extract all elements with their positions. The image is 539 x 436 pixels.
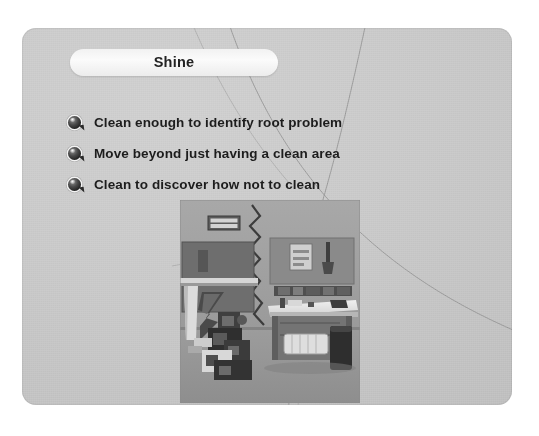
slide-page: Shine Clean enough to identify root prob… (0, 0, 539, 436)
list-item: Move beyond just having a clean area (68, 139, 458, 167)
glossy-sphere-bullet-icon (68, 178, 81, 191)
list-item: Clean enough to identify root problem (68, 108, 458, 136)
glossy-sphere-bullet-icon (68, 147, 81, 160)
bullet-label: Move beyond just having a clean area (94, 146, 340, 161)
bullet-label: Clean enough to identify root problem (94, 115, 342, 130)
glossy-sphere-bullet-icon (68, 116, 81, 129)
slide-title-pill: Shine (70, 49, 278, 76)
page-title: Shine (154, 55, 194, 70)
bullet-list: Clean enough to identify root problem Mo… (68, 108, 458, 201)
workplace-photo (180, 200, 360, 403)
clean-workbench-area (264, 238, 358, 374)
bullet-label: Clean to discover how not to clean (94, 177, 320, 192)
presentation-slide: Shine Clean enough to identify root prob… (22, 28, 512, 405)
list-item: Clean to discover how not to clean (68, 170, 458, 198)
red-tag-area-sign (208, 216, 240, 230)
